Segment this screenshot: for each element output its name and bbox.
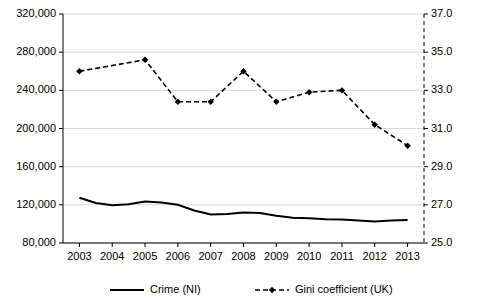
legend-label: Gini coefficient (UK) <box>295 283 393 295</box>
series-marker <box>142 57 148 63</box>
chart-container: 80,000120,000160,000200,000240,000280,00… <box>0 0 490 307</box>
right-axis-tick-label: 27.0 <box>431 198 481 210</box>
left-axis-tick-label: 120,000 <box>0 198 56 210</box>
series-marker <box>76 68 82 74</box>
series-marker <box>273 99 279 105</box>
left-axis-tick-label: 280,000 <box>0 45 56 57</box>
legend-marker-sample <box>269 287 275 293</box>
left-axis-tick-label: 320,000 <box>0 7 56 19</box>
right-axis-tick-label: 35.0 <box>431 45 481 57</box>
left-axis-tick-label: 240,000 <box>0 83 56 95</box>
legend-label: Crime (NI) <box>150 283 201 295</box>
left-axis-tick-label: 80,000 <box>0 236 56 248</box>
right-axis-tick-label: 25.0 <box>431 236 481 248</box>
left-axis-tick-label: 200,000 <box>0 122 56 134</box>
left-axis-tick-label: 160,000 <box>0 160 56 172</box>
series-line <box>79 198 407 222</box>
chart-legend: Crime (NI)Gini coefficient (UK) <box>0 277 490 303</box>
right-axis-tick-label: 31.0 <box>431 122 481 134</box>
right-axis-tick-label: 33.0 <box>431 83 481 95</box>
right-axis-tick-label: 29.0 <box>431 160 481 172</box>
legend-keys <box>0 277 490 303</box>
x-axis-tick-label: 2013 <box>388 250 428 262</box>
right-axis-tick-label: 37.0 <box>431 7 481 19</box>
